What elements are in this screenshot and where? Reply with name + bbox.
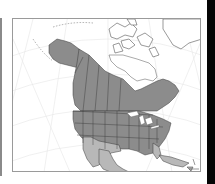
range-map [13, 19, 201, 172]
map-frame [12, 18, 201, 172]
right-edge-bar [207, 0, 215, 184]
left-edge-bar [0, 18, 2, 176]
arctic-circle [53, 23, 93, 28]
arctic-outlines [109, 19, 201, 57]
